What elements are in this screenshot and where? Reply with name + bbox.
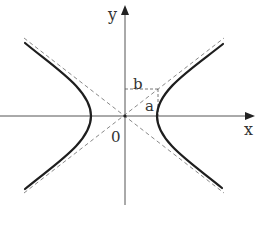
origin-label: 0 — [111, 128, 121, 146]
x-axis-arrow-icon — [245, 112, 255, 120]
y-axis-arrow-icon — [121, 5, 129, 15]
axes — [0, 10, 250, 205]
y-axis-label: y — [107, 5, 117, 24]
rect-height-label-a: a — [145, 97, 154, 115]
rect-width-label-b: b — [133, 75, 143, 93]
hyperbola-diagram: y x 0 b a — [0, 0, 265, 228]
x-axis-label: x — [244, 120, 253, 139]
origin-point — [123, 114, 126, 117]
